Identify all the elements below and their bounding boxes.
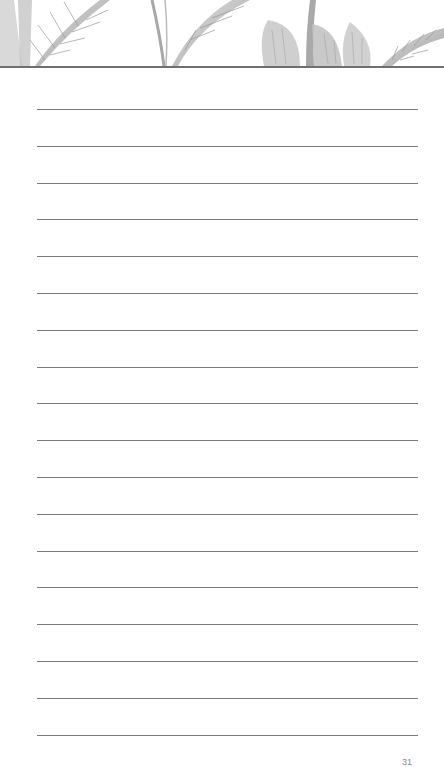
header-divider xyxy=(0,66,444,68)
writing-line xyxy=(37,624,418,625)
writing-line xyxy=(37,367,418,368)
writing-line xyxy=(37,256,418,257)
palm-leaves-icon xyxy=(0,0,444,67)
writing-line xyxy=(37,698,418,699)
writing-line xyxy=(37,293,418,294)
writing-line xyxy=(37,477,418,478)
writing-line xyxy=(37,551,418,552)
writing-line xyxy=(37,219,418,220)
writing-line xyxy=(37,661,418,662)
writing-line xyxy=(37,146,418,147)
header-illustration xyxy=(0,0,444,67)
writing-line xyxy=(37,440,418,441)
writing-line xyxy=(37,403,418,404)
writing-line xyxy=(37,183,418,184)
writing-line xyxy=(37,735,418,736)
writing-line xyxy=(37,587,418,588)
writing-line xyxy=(37,330,418,331)
page-number: 31 xyxy=(402,757,412,767)
writing-line xyxy=(37,109,418,110)
writing-line xyxy=(37,514,418,515)
